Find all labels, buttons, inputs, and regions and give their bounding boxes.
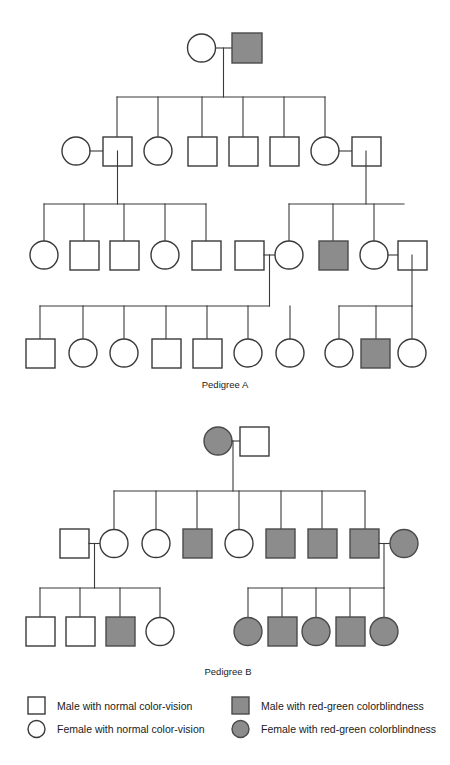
legend-swatch-female-affected-icon: [232, 721, 249, 738]
individual-a-iv-1[interactable]: [26, 339, 55, 368]
individual-b-ii-2[interactable]: [100, 530, 128, 558]
pedigree-b-generation-2: [60, 529, 418, 558]
individual-b-iii-9[interactable]: [370, 618, 398, 646]
individual-a-iii-3[interactable]: [110, 241, 139, 270]
legend-item-male-affected: Male with red-green colorblindness: [232, 697, 424, 714]
individual-b-ii-1[interactable]: [60, 529, 89, 558]
individual-b-i-2[interactable]: [240, 427, 269, 456]
individual-b-ii-7[interactable]: [308, 529, 337, 558]
individual-b-ii-4[interactable]: [183, 529, 212, 558]
individual-a-iv-8[interactable]: [325, 339, 353, 367]
individual-b-iii-3[interactable]: [106, 617, 135, 646]
legend-item-female-affected: Female with red-green colorblindness: [232, 721, 436, 738]
individual-a-iv-5[interactable]: [193, 339, 222, 368]
individual-a-iii-1[interactable]: [30, 241, 58, 269]
legend-label-male-affected: Male with red-green colorblindness: [261, 700, 424, 712]
pedigree-figure: Pedigree A: [0, 0, 450, 765]
individual-b-ii-5[interactable]: [225, 530, 253, 558]
individual-b-i-1[interactable]: [204, 427, 232, 455]
individual-b-ii-3[interactable]: [142, 530, 170, 558]
individual-a-ii-3[interactable]: [144, 137, 172, 165]
individual-a-ii-5[interactable]: [229, 137, 258, 166]
legend-label-female-normal: Female with normal color-vision: [57, 723, 205, 735]
individual-a-iv-4[interactable]: [152, 339, 181, 368]
individual-b-iii-2[interactable]: [66, 617, 95, 646]
individual-b-iii-1[interactable]: [26, 617, 55, 646]
individual-a-iv-2[interactable]: [69, 339, 97, 367]
individual-a-iii-8[interactable]: [319, 241, 348, 270]
individual-a-iv-10[interactable]: [398, 339, 426, 367]
individual-b-ii-9[interactable]: [390, 530, 418, 558]
legend-swatch-male-normal-icon: [28, 697, 45, 714]
individual-a-iv-7[interactable]: [276, 339, 304, 367]
individual-b-iii-5[interactable]: [234, 618, 262, 646]
individual-a-iv-9[interactable]: [361, 339, 390, 368]
legend-swatch-male-affected-icon: [232, 697, 249, 714]
legend-label-male-normal: Male with normal color-vision: [57, 700, 193, 712]
individual-a-ii-6[interactable]: [270, 137, 299, 166]
individual-a-ii-4[interactable]: [188, 137, 217, 166]
individual-a-ii-7[interactable]: [311, 137, 339, 165]
individual-a-i-2[interactable]: [232, 33, 262, 63]
individual-a-iii-2[interactable]: [70, 241, 99, 270]
individual-a-iii-5[interactable]: [192, 241, 221, 270]
individual-a-iii-7[interactable]: [275, 241, 303, 269]
individual-b-iii-7[interactable]: [302, 618, 330, 646]
individual-b-iii-8[interactable]: [336, 617, 365, 646]
individual-b-iii-6[interactable]: [268, 617, 297, 646]
individual-b-ii-8[interactable]: [350, 529, 379, 558]
pedigree-a-caption: Pedigree A: [202, 379, 249, 390]
individual-a-iii-9[interactable]: [360, 241, 388, 269]
legend-swatch-female-normal-icon: [28, 721, 45, 738]
individual-a-iv-6[interactable]: [234, 339, 262, 367]
individual-b-ii-6[interactable]: [266, 529, 295, 558]
individual-a-ii-1[interactable]: [62, 137, 90, 165]
individual-a-iii-6[interactable]: [235, 241, 264, 270]
legend-label-female-affected: Female with red-green colorblindness: [261, 723, 436, 735]
individual-a-iv-3[interactable]: [110, 339, 138, 367]
individual-a-iii-4[interactable]: [151, 241, 179, 269]
individual-b-iii-4[interactable]: [146, 618, 174, 646]
individual-a-i-1[interactable]: [188, 34, 216, 62]
pedigree-b-caption: Pedigree B: [204, 666, 251, 677]
